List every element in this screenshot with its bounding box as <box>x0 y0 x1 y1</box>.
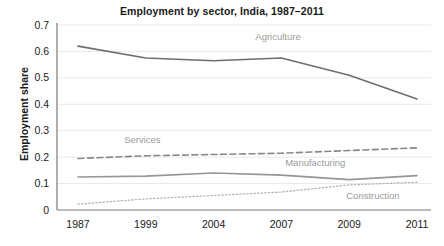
y-axis-ticks: 00.10.20.30.40.50.60.7 <box>34 19 49 216</box>
plot-area: 00.10.20.30.40.50.60.7 19871999200420072… <box>0 0 444 246</box>
x-tick-label: 1999 <box>134 218 158 230</box>
series-label-agriculture: Agriculture <box>255 31 300 42</box>
series-line-agriculture <box>78 46 417 99</box>
y-tick-label: 0.4 <box>34 98 49 110</box>
y-tick-label: 0.1 <box>34 177 49 189</box>
x-tick-label: 2009 <box>338 218 362 230</box>
y-tick-label: 0.7 <box>34 19 49 31</box>
x-tick-label: 1987 <box>66 218 90 230</box>
series-label-services: Services <box>124 134 161 145</box>
y-tick-label: 0.3 <box>34 124 49 136</box>
y-tick-label: 0 <box>43 204 49 216</box>
series-label-construction: Construction <box>346 190 399 201</box>
series-label-manufacturing: Manufacturing <box>285 157 345 168</box>
gridlines <box>57 25 431 184</box>
x-tick-label: 2007 <box>270 218 294 230</box>
y-tick-label: 0.2 <box>34 151 49 163</box>
x-tick-label: 2011 <box>406 218 429 230</box>
y-tick-label: 0.5 <box>34 71 49 83</box>
data-series-group <box>78 46 417 204</box>
x-tick-label: 2004 <box>202 218 226 230</box>
y-tick-label: 0.6 <box>34 45 49 57</box>
x-axis-ticks: 198719992004200720092011 <box>66 218 428 230</box>
chart-container: Employment by sector, India, 1987–2011 E… <box>0 0 444 246</box>
series-line-manufacturing <box>78 173 417 180</box>
